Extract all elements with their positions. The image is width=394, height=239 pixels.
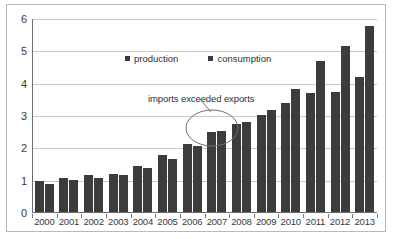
legend-item-production: production — [125, 53, 178, 64]
legend-label-production: production — [134, 53, 178, 64]
bar-consumption-2011 — [316, 61, 325, 212]
bar-group — [254, 18, 279, 212]
x-axis-tick-mark — [229, 214, 230, 218]
x-axis-tick-mark — [81, 214, 82, 218]
x-axis-tick-label: 2009 — [254, 214, 279, 230]
x-axis-tick-label: 2001 — [57, 214, 82, 230]
bar-consumption-2003 — [119, 175, 128, 212]
x-axis-tick-label: 2007 — [204, 214, 229, 230]
x-axis-tick-label: 2013 — [352, 214, 377, 230]
bar-group — [278, 18, 303, 212]
x-axis-tick-mark — [205, 214, 206, 218]
bar-group — [57, 18, 82, 212]
bar-production-2013 — [355, 77, 364, 212]
x-axis-tick-mark — [57, 214, 58, 218]
legend-label-consumption: consumption — [217, 53, 271, 64]
bar-consumption-2010 — [291, 89, 300, 212]
bar-production-2002 — [84, 175, 93, 212]
bar-consumption-2007 — [217, 131, 226, 212]
bar-consumption-2000 — [45, 184, 54, 212]
bar-group — [352, 18, 377, 212]
x-axis-tick-label: 2005 — [155, 214, 180, 230]
x-axis-tick-mark — [180, 214, 181, 218]
x-axis-tick-mark — [155, 214, 156, 218]
y-axis-tick-label: 0 — [21, 208, 27, 219]
bar-group — [229, 18, 254, 212]
bar-consumption-2001 — [69, 180, 78, 212]
bar-group — [204, 18, 229, 212]
bar-group — [81, 18, 106, 212]
x-axis-line — [32, 212, 377, 213]
x-axis-tick-label: 2011 — [303, 214, 328, 230]
bar-group — [32, 18, 57, 212]
x-axis-tick-label: 2008 — [229, 214, 254, 230]
bar-production-2005 — [158, 155, 167, 212]
bar-production-2012 — [331, 92, 340, 212]
bar-production-2010 — [281, 103, 290, 212]
x-axis-tick-label: 2006 — [180, 214, 205, 230]
bar-production-2011 — [306, 93, 315, 212]
x-axis-tick-mark — [32, 214, 33, 218]
bar-consumption-2005 — [168, 159, 177, 212]
bar-production-2006 — [183, 144, 192, 212]
x-axis-tick-label: 2012 — [328, 214, 353, 230]
x-axis-labels: 2000200120022003200420052006200720082009… — [32, 214, 377, 230]
y-axis-tick-label: 3 — [21, 111, 27, 122]
bar-group — [155, 18, 180, 212]
bar-group — [106, 18, 131, 212]
x-axis-tick-label: 2000 — [32, 214, 57, 230]
plot-area: 0123456 — [32, 19, 377, 213]
bar-consumption-2013 — [365, 26, 374, 212]
bar-production-2007 — [207, 132, 216, 212]
bar-consumption-2002 — [94, 178, 103, 212]
y-axis-tick-label: 4 — [21, 78, 27, 89]
bar-consumption-2009 — [267, 110, 276, 212]
legend-item-consumption: consumption — [208, 53, 271, 64]
bar-consumption-2004 — [143, 168, 152, 212]
bar-consumption-2012 — [341, 46, 350, 212]
bar-production-2008 — [232, 124, 241, 212]
y-axis-tick-label: 1 — [21, 175, 27, 186]
x-axis-tick-mark — [131, 214, 132, 218]
bar-production-2004 — [133, 166, 142, 212]
x-axis-tick-label: 2003 — [106, 214, 131, 230]
bar-groups — [32, 18, 377, 212]
x-axis-tick-mark — [254, 214, 255, 218]
y-axis-tick-label: 2 — [21, 143, 27, 154]
bar-production-2003 — [109, 174, 118, 212]
chart-frame: 0123456 20002001200220032004200520062007… — [6, 4, 386, 232]
bar-production-2000 — [35, 181, 44, 212]
annotation-text: imports exceeded exports — [148, 93, 254, 104]
x-axis-tick-mark — [303, 214, 304, 218]
x-axis-tick-mark — [328, 214, 329, 218]
bar-group — [180, 18, 205, 212]
bar-group — [328, 18, 353, 212]
bar-consumption-2008 — [242, 122, 251, 212]
y-axis-tick-label: 6 — [21, 14, 27, 25]
x-axis-tick-label: 2010 — [278, 214, 303, 230]
chart-legend: production consumption — [125, 53, 271, 64]
bar-group — [303, 18, 328, 212]
bar-production-2009 — [257, 115, 266, 212]
x-axis-tick-mark — [377, 214, 378, 218]
bar-group — [131, 18, 156, 212]
x-axis-tick-mark — [278, 214, 279, 218]
x-axis-tick-label: 2002 — [81, 214, 106, 230]
x-axis-tick-mark — [106, 214, 107, 218]
y-axis-tick-label: 5 — [21, 46, 27, 57]
legend-swatch-icon — [208, 56, 213, 61]
x-axis-tick-mark — [352, 214, 353, 218]
bar-consumption-2006 — [193, 146, 202, 212]
bar-production-2001 — [59, 178, 68, 212]
legend-swatch-icon — [125, 56, 130, 61]
x-axis-tick-label: 2004 — [131, 214, 156, 230]
